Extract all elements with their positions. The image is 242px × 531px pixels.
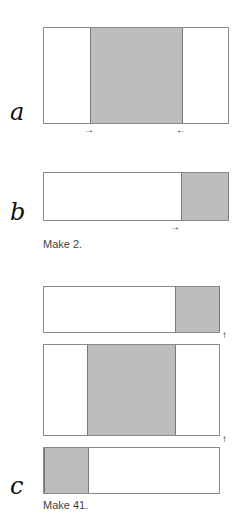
left-arrow-icon: ←	[176, 125, 186, 135]
figure-a-shaded-region	[90, 28, 183, 123]
figure-c-bottom-shaded-region	[44, 448, 89, 493]
up-arrow-icon: ↑	[222, 330, 227, 340]
figure-b-box	[43, 172, 229, 221]
up-arrow-icon: ↑	[222, 434, 227, 444]
figure-b-caption: Make 2.	[43, 238, 82, 250]
figure-c-box-bottom	[43, 447, 220, 494]
figure-c-label: c	[10, 474, 23, 498]
figure-c-middle-shaded-region	[87, 345, 176, 435]
figure-c-box-top	[43, 286, 220, 333]
figure-a-label: a	[10, 100, 24, 124]
right-arrow-icon: →	[170, 222, 180, 232]
figure-a-box	[43, 27, 229, 124]
right-arrow-icon: →	[84, 125, 94, 135]
figure-c-caption: Make 41.	[43, 499, 88, 511]
figure-b-shaded-region	[181, 173, 229, 220]
figure-c-top-shaded-region	[175, 287, 220, 332]
figure-b-label: b	[10, 200, 25, 224]
figure-c-box-middle	[43, 344, 220, 436]
